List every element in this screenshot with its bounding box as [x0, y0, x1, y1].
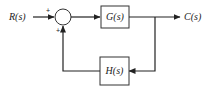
input-sign: +	[46, 7, 50, 14]
output-label: C(s)	[184, 11, 202, 23]
feedback-sign: +	[56, 27, 60, 34]
feedback-tap-line	[129, 17, 155, 71]
summing-junction	[55, 9, 71, 25]
block-diagram: R(s) + G(s) C(s) H(s) +	[0, 0, 212, 88]
feedback-return-arrow	[63, 26, 100, 71]
feedback-block-label: H(s)	[105, 65, 124, 77]
input-label: R(s)	[8, 11, 26, 23]
feedback-block: H(s)	[100, 57, 129, 85]
forward-block: G(s)	[101, 6, 129, 28]
forward-block-label: G(s)	[106, 11, 124, 23]
